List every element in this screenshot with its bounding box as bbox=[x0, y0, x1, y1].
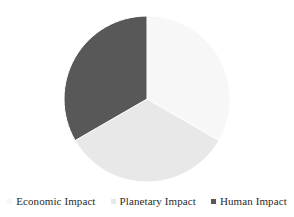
chart-legend: Economic Impact Planetary Impact Human I… bbox=[0, 186, 294, 217]
legend-label: Economic Impact bbox=[16, 195, 95, 208]
pie-svg bbox=[0, 0, 294, 186]
legend-label: Planetary Impact bbox=[120, 195, 196, 208]
legend-label: Human Impact bbox=[220, 195, 287, 208]
legend-swatch-icon bbox=[7, 199, 12, 204]
legend-item-planetary-impact[interactable]: Planetary Impact bbox=[111, 195, 196, 208]
legend-swatch-icon bbox=[211, 199, 216, 204]
pie-chart-figure: Economic Impact Planetary Impact Human I… bbox=[0, 0, 294, 217]
legend-swatch-icon bbox=[111, 199, 116, 204]
legend-item-human-impact[interactable]: Human Impact bbox=[211, 195, 287, 208]
pie-slices bbox=[64, 16, 230, 182]
legend-item-economic-impact[interactable]: Economic Impact bbox=[7, 195, 95, 208]
pie-plot-area bbox=[0, 0, 294, 186]
